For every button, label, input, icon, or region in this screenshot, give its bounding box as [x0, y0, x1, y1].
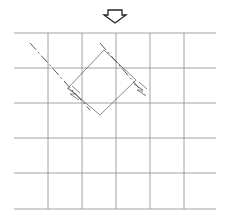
section-line-left	[30, 43, 90, 110]
diagram-canvas	[0, 0, 225, 224]
down-arrow-icon	[104, 10, 126, 23]
rotated-square	[68, 50, 136, 115]
